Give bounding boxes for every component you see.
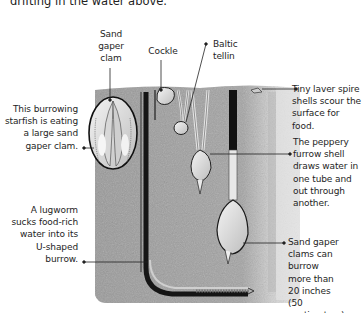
label-sand-gaper-depth: Sand gaper clams can burrow more than 20…	[288, 236, 364, 313]
label-starfish: This burrowing starfish is eating a larg…	[2, 103, 78, 152]
label-line: Baltic	[213, 38, 238, 50]
label-line: clam	[96, 52, 126, 64]
label-line: another.	[293, 197, 358, 209]
label-line: 20 inches	[288, 285, 364, 297]
starfish-and-clam	[89, 97, 137, 169]
label-lugworm: A lugworm sucks food-rich water into its…	[2, 204, 78, 265]
label-line: out through	[293, 185, 358, 197]
label-peppery-furrow: The peppery furrow shell draws water in …	[293, 136, 358, 209]
label-line: shells scour the	[292, 95, 364, 107]
label-line: a large sand	[2, 127, 78, 139]
label-line: burrow.	[2, 253, 78, 265]
label-line: Tiny laver spire	[292, 83, 364, 95]
label-line: draws water in	[293, 160, 358, 172]
label-line: U-shaped	[2, 241, 78, 253]
label-line: Cockle	[143, 45, 183, 57]
label-line: gaper clam.	[2, 140, 78, 152]
label-sand-gaper-clam: Sand gaper clam	[96, 28, 126, 65]
label-line: starfish is eating	[2, 115, 78, 127]
label-line: The peppery	[293, 136, 358, 148]
label-line: This burrowing	[2, 103, 78, 115]
label-line: more than	[288, 273, 364, 285]
label-line: surface for food.	[292, 107, 364, 131]
label-cockle: Cockle	[143, 45, 183, 57]
label-laver-spire: Tiny laver spire shells scour the surfac…	[292, 83, 364, 132]
label-line: one tube and	[293, 173, 358, 185]
label-line: sucks food-rich	[2, 216, 78, 228]
label-line: water into its	[2, 228, 78, 240]
label-line: Sand	[96, 28, 126, 40]
label-line: Sand gaper	[288, 236, 364, 248]
label-line: furrow shell	[293, 148, 358, 160]
label-line: (50 centimeters).	[288, 297, 364, 313]
label-line: tellin	[213, 50, 238, 62]
label-baltic-tellin: Baltic tellin	[213, 38, 238, 62]
label-line: clams can burrow	[288, 248, 364, 272]
label-line: A lugworm	[2, 204, 78, 216]
label-line: gaper	[96, 40, 126, 52]
